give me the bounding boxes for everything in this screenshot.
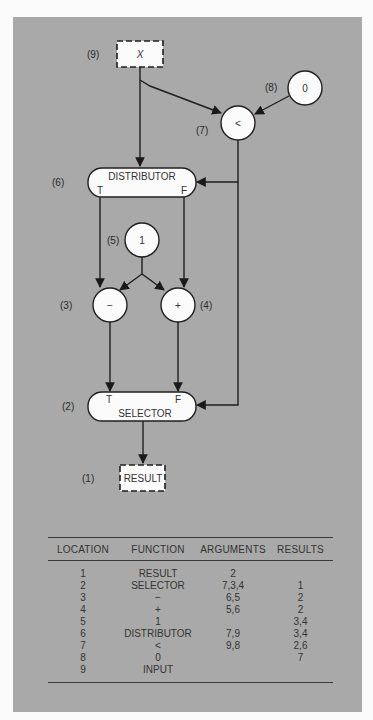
cell-location: 9 [48,664,118,676]
cell-results: 2,6 [268,640,333,652]
node-selector: T F SELECTOR (2) [62,392,196,421]
header-results: RESULTS [268,544,333,555]
distributor-port-t: T [97,185,103,196]
table-row: 3−6,52 [48,592,333,604]
node-less-text: < [235,118,241,129]
cell-function: INPUT [118,664,198,676]
header-location: LOCATION [48,544,118,555]
cell-location: 5 [48,616,118,628]
cell-results: 1 [268,580,333,592]
cell-function: − [118,592,198,604]
cell-function: + [118,604,198,616]
cell-results [268,664,333,676]
cell-location: 8 [48,652,118,664]
cell-arguments: 5,6 [198,604,268,616]
node-distributor: DISTRIBUTOR T F (6) [52,168,196,197]
node-distributor-label: (6) [52,177,64,188]
table-bottom-rule [48,682,333,683]
cell-location: 1 [48,568,118,580]
node-plus: + (4) [161,288,212,322]
cell-arguments: 9,8 [198,640,268,652]
edge-less-to-distributor [197,140,238,182]
table-row: 807 [48,652,333,664]
cell-function: RESULT [118,568,198,580]
node-minus-text: − [107,300,113,311]
header-function: FUNCTION [118,544,198,555]
cell-function: DISTRIBUTOR [118,628,198,640]
selector-port-f: F [175,394,181,405]
cell-location: 3 [48,592,118,604]
table-body: 1RESULT22SELECTOR7,3,413−6,524+5,62513,4… [48,561,333,682]
node-plus-label: (4) [200,300,212,311]
node-distributor-text: DISTRIBUTOR [108,171,176,182]
node-zero: 0 (8) [265,71,322,105]
node-one-label: (5) [107,235,119,246]
table-row: 4+5,62 [48,604,333,616]
node-input-text: X [136,49,144,60]
table-row: 1RESULT2 [48,568,333,580]
node-selector-label: (2) [62,401,74,412]
table-row: 9INPUT [48,664,333,676]
node-less-label: (7) [196,125,208,136]
node-input: X (9) [87,41,163,67]
table-header: LOCATION FUNCTION ARGUMENTS RESULTS [48,538,333,560]
edge-one-to-plus [142,274,164,290]
location-table: LOCATION FUNCTION ARGUMENTS RESULTS 1RES… [48,537,333,683]
node-less: < (7) [196,106,255,140]
node-plus-text: + [175,300,181,311]
node-input-label: (9) [87,49,99,60]
distributor-port-f: F [181,185,187,196]
cell-function: SELECTOR [118,580,198,592]
cell-function: 1 [118,616,198,628]
node-zero-label: (8) [265,82,277,93]
cell-arguments: 6,5 [198,592,268,604]
table-row: 7<9,82,6 [48,640,333,652]
dataflow-diagram: X (9) 0 (8) < (7) DISTRIBUTOR T F (6) 1 … [0,0,373,520]
cell-function: < [118,640,198,652]
cell-arguments: 7,9 [198,628,268,640]
table-row: 6DISTRIBUTOR7,93,4 [48,628,333,640]
node-result-text: RESULT [124,473,163,484]
node-one-text: 1 [139,235,145,246]
node-minus-label: (3) [60,300,72,311]
cell-location: 4 [48,604,118,616]
node-one: 1 (5) [107,223,159,257]
header-arguments: ARGUMENTS [198,544,268,555]
cell-results: 2 [268,604,333,616]
edge-zero-to-less [255,96,289,114]
cell-results [268,568,333,580]
edge-less-to-selector [197,182,238,405]
node-zero-text: 0 [302,83,308,94]
cell-results: 3,4 [268,616,333,628]
edge-x-to-less [140,80,221,113]
table-row: 513,4 [48,616,333,628]
table-row: 2SELECTOR7,3,41 [48,580,333,592]
cell-arguments: 7,3,4 [198,580,268,592]
cell-results: 2 [268,592,333,604]
edge-one-to-minus [120,257,142,290]
cell-arguments: 2 [198,568,268,580]
cell-arguments [198,664,268,676]
cell-results: 7 [268,652,333,664]
node-selector-text: SELECTOR [118,408,172,419]
cell-location: 6 [48,628,118,640]
cell-arguments [198,616,268,628]
selector-port-t: T [106,394,112,405]
node-minus: − (3) [60,288,127,322]
cell-results: 3,4 [268,628,333,640]
cell-arguments [198,652,268,664]
node-result: RESULT (1) [82,465,165,491]
node-result-label: (1) [82,473,94,484]
cell-location: 7 [48,640,118,652]
cell-function: 0 [118,652,198,664]
cell-location: 2 [48,580,118,592]
